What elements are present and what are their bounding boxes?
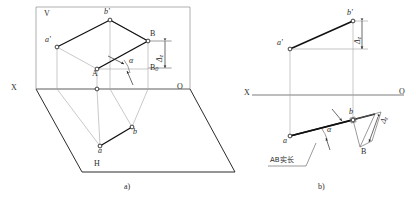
label-delta-z-a: Δz: [156, 55, 164, 62]
label-B-b: B: [361, 148, 366, 156]
label-a-prime-a: a': [45, 36, 51, 44]
label-a-prime-b: a': [277, 39, 283, 47]
label-b-lower-a: b: [133, 128, 137, 136]
label-alpha-b: α: [327, 126, 331, 134]
label-B0-a: B0: [150, 64, 158, 72]
label-h-plane: H: [94, 160, 100, 168]
figure-b-group: [252, 19, 404, 166]
label-a-lower-b: a: [283, 137, 287, 145]
caption-figure-a: a): [124, 182, 130, 191]
label-A-a: A: [92, 70, 98, 78]
label-o-axis-b: O: [399, 88, 405, 96]
label-x-axis-b: X: [244, 89, 250, 97]
spatial-quadrilateral-a: [57, 20, 148, 47]
label-delta-z-b-top: Δz: [354, 37, 362, 44]
delta-z-dimension-b-low: [369, 117, 378, 142]
label-v-plane: V: [44, 10, 50, 18]
label-b-prime-b: b': [347, 9, 353, 17]
right-triangle-b: [353, 112, 381, 147]
segment-ab-prime-b: [290, 21, 353, 49]
figure-a-group: [36, 7, 235, 172]
caption-figure-b: b): [318, 182, 325, 191]
label-o-axis-a: O: [177, 83, 183, 91]
upper-view-aux-b: [290, 21, 368, 49]
point-markers-b: [288, 19, 355, 138]
drawing-sheet: V H X O a' b' B A a b B0 α Δz a) X O a' …: [0, 0, 416, 198]
label-alpha-a: α: [129, 57, 133, 65]
projection-connectors-b: [290, 21, 353, 136]
label-B-a: B: [150, 30, 155, 38]
label-x-axis-a: X: [11, 84, 17, 92]
segment-AB-true-length-a: [97, 41, 148, 69]
label-b-lower-b: b: [349, 108, 353, 116]
drawing-canvas: [0, 0, 416, 198]
segment-ab-horizontal-projection-a: [100, 127, 132, 146]
label-a-lower-a: a: [98, 147, 102, 155]
label-b-prime-a: b': [104, 8, 110, 16]
note-ab-true-length: AB实长: [270, 157, 294, 164]
